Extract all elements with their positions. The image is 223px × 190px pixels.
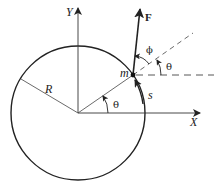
radius-label: R <box>44 82 53 96</box>
mass-point <box>131 73 136 78</box>
radial-extension-dashed <box>133 33 193 75</box>
phi-label: ϕ <box>146 44 153 55</box>
x-axis-label: X <box>189 115 198 129</box>
theta-center-label: θ <box>113 99 119 110</box>
phi-arc-icon <box>135 56 149 64</box>
arc-length-label: s <box>148 88 153 102</box>
mass-label: m <box>120 66 129 80</box>
y-axis-label: Y <box>66 5 74 19</box>
force-vector <box>133 9 140 75</box>
force-label: F <box>145 11 152 23</box>
diagram-canvas: Y X R m F ϕ θ θ s <box>0 0 223 190</box>
theta-mass-label: θ <box>166 61 172 72</box>
radial-line-to-mass <box>78 75 133 113</box>
theta-arc-mass-icon <box>157 60 161 75</box>
theta-arc-center-icon <box>103 96 108 113</box>
